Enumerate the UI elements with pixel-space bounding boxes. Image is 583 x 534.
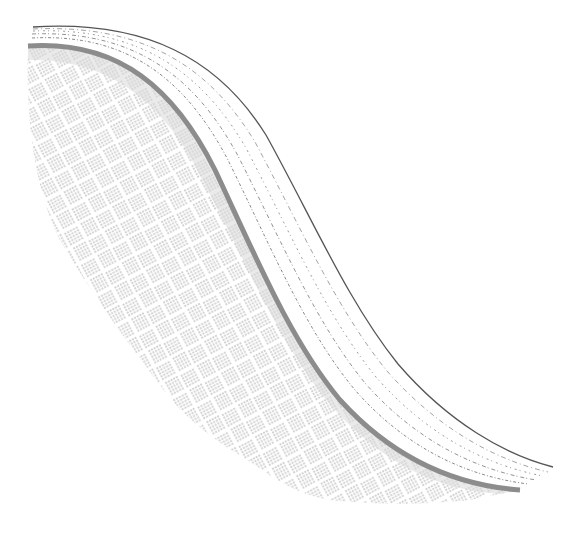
- abstract-curve-drawing: [0, 0, 583, 534]
- weave-hatch-field: [0, 0, 583, 534]
- artwork-canvas: [0, 0, 583, 534]
